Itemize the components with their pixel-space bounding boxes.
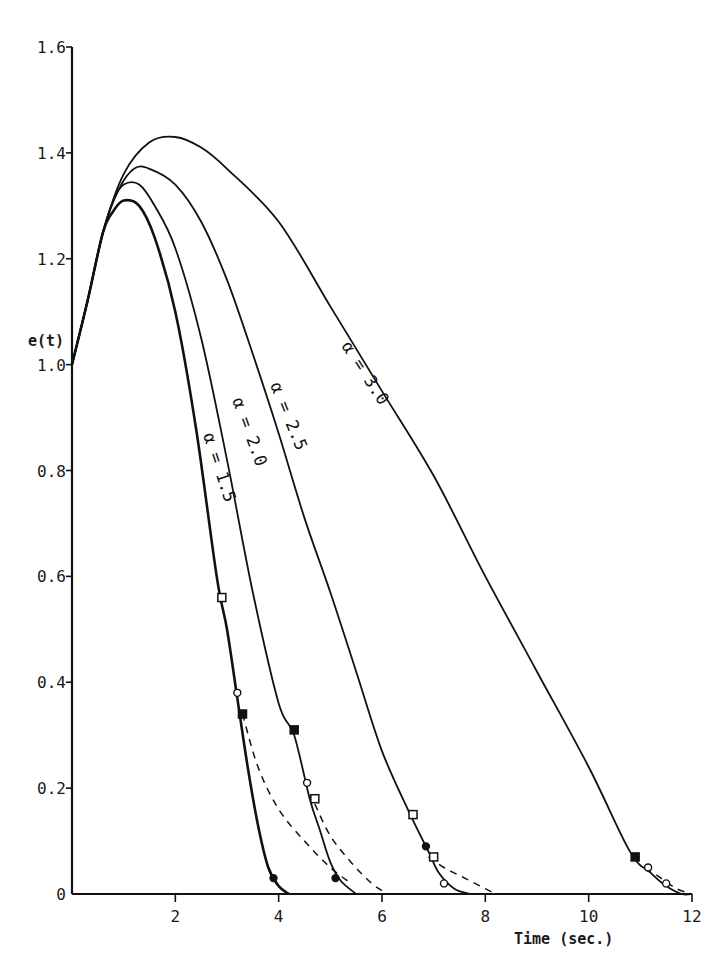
y-tick-label: 0 <box>56 885 66 904</box>
dashed-tail <box>429 857 496 894</box>
x-axis-ticks: 24681012 <box>171 894 702 926</box>
square-marker <box>631 853 639 861</box>
curve-label-alpha-3-0: α = 3.0 <box>338 337 394 408</box>
circle-marker <box>234 689 241 696</box>
y-tick-label: 0.6 <box>37 567 66 586</box>
y-tick-label: 0.2 <box>37 779 66 798</box>
x-tick-label: 12 <box>682 907 701 926</box>
y-axis-title: e(t) <box>28 332 64 350</box>
y-tick-label: 1.6 <box>37 38 66 57</box>
curves <box>72 137 692 895</box>
data-markers <box>218 594 670 887</box>
curve-15 <box>72 200 289 894</box>
y-tick-label: 0.4 <box>37 673 66 692</box>
y-tick-label: 0.8 <box>37 462 66 481</box>
y-tick-label: 1.2 <box>37 250 66 269</box>
circle-marker <box>332 875 339 882</box>
x-axis-title: Time (sec.) <box>514 930 613 948</box>
curve-20 <box>72 182 356 894</box>
curve-25 <box>72 166 470 894</box>
x-tick-label: 2 <box>171 907 181 926</box>
square-marker <box>218 594 226 602</box>
circle-marker <box>304 779 311 786</box>
y-tick-label: 1.0 <box>37 356 66 375</box>
x-tick-label: 10 <box>579 907 598 926</box>
y-tick-label: 1.4 <box>37 144 66 163</box>
circle-marker <box>270 875 277 882</box>
circle-marker <box>663 880 670 887</box>
square-marker <box>430 853 438 861</box>
curve-30 <box>72 137 692 895</box>
y-axis-ticks: 00.20.40.60.81.01.21.41.6 <box>37 38 72 904</box>
square-marker <box>409 811 417 819</box>
square-marker <box>290 726 298 734</box>
x-tick-label: 4 <box>274 907 284 926</box>
square-marker <box>311 795 319 803</box>
axes <box>72 47 692 894</box>
square-marker <box>239 710 247 718</box>
circle-marker <box>645 864 652 871</box>
circle-marker <box>441 880 448 887</box>
dashed-tail <box>243 714 352 883</box>
curve-label-alpha-2-0: α = 2.0 <box>228 395 271 469</box>
x-tick-label: 6 <box>377 907 387 926</box>
x-tick-label: 8 <box>481 907 491 926</box>
line-chart: 00.20.40.60.81.01.21.41.6 24681012 e(t) … <box>0 0 725 972</box>
circle-marker <box>422 843 429 850</box>
